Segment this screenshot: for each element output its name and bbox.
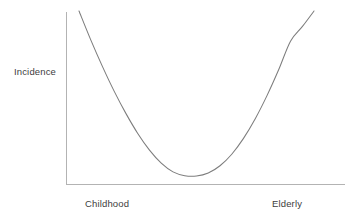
axes-group	[66, 12, 345, 185]
incidence-curve-line	[79, 11, 314, 176]
y-axis-label: Incidence	[14, 66, 56, 78]
series-group	[79, 11, 314, 176]
chart-container: Incidence Childhood Elderly	[0, 0, 352, 218]
x-axis-tick-label-elderly: Elderly	[272, 198, 302, 210]
incidence-curve-plot	[0, 0, 352, 218]
x-axis-tick-label-childhood: Childhood	[85, 198, 129, 210]
